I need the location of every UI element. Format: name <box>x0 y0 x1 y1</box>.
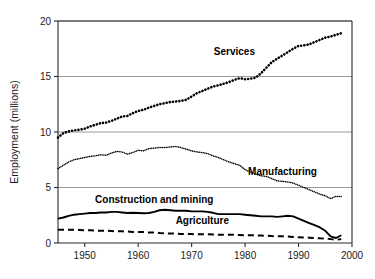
x-tick-label: 1990 <box>287 250 310 261</box>
y-tick-label: 20 <box>40 16 52 27</box>
x-tick-label: 1980 <box>234 250 257 261</box>
y-axis-ticks: 05101520 <box>40 16 58 249</box>
series-label-manufacturing: Manufacturing <box>248 166 317 177</box>
y-tick-label: 0 <box>45 238 51 249</box>
y-tick-label: 15 <box>40 71 52 82</box>
series-line-agriculture <box>58 230 341 240</box>
series-line-services <box>58 33 341 137</box>
data-series <box>58 33 341 239</box>
employment-line-chart: 05101520 195019601970198019902000 Servic… <box>0 0 375 279</box>
series-label-services: Services <box>214 46 256 57</box>
y-tick-label: 5 <box>45 182 51 193</box>
chart-canvas: 05101520 195019601970198019902000 Servic… <box>0 0 375 279</box>
series-labels: ServicesManufacturingConstruction and mi… <box>95 46 317 225</box>
x-axis-ticks: 195019601970198019902000 <box>74 243 364 261</box>
x-tick-label: 1970 <box>181 250 204 261</box>
x-tick-label: 1960 <box>127 250 150 261</box>
grid-lines <box>58 21 352 188</box>
x-tick-label: 1950 <box>74 250 97 261</box>
x-tick-label: 2000 <box>341 250 364 261</box>
series-label-construction-and-mining: Construction and mining <box>95 194 213 205</box>
y-axis-title-text: Employment (millions) <box>8 80 20 183</box>
series-label-agriculture: Agriculture <box>176 215 230 226</box>
y-tick-label: 10 <box>40 127 52 138</box>
y-axis-title: Employment (millions) <box>8 80 20 183</box>
